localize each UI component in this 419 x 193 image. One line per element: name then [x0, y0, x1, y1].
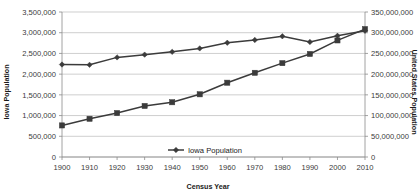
left-tick-label: 3,000,000 — [22, 28, 56, 37]
x-axis-tick-labels: 1900191019201930194019501960197019801990… — [54, 163, 374, 172]
right-tick-label: 200,000,000 — [371, 70, 413, 79]
axes-group — [59, 12, 368, 157]
left-tick-label: 3,500,000 — [22, 8, 56, 17]
left-tick-label: 0 — [52, 153, 56, 162]
data-point-marker — [280, 34, 285, 39]
left-tick-label: 1,500,000 — [22, 91, 56, 100]
x-tick-label: 2010 — [357, 163, 374, 172]
x-tick-label: 1990 — [301, 163, 318, 172]
data-point-marker — [142, 52, 147, 57]
data-point-marker — [252, 70, 257, 75]
right-tick-label: 350,000,000 — [371, 8, 413, 17]
x-axis-title: Census Year — [186, 182, 229, 191]
data-point-marker — [225, 80, 230, 85]
legend-swatch-marker — [173, 147, 178, 152]
x-tick-label: 2000 — [329, 163, 346, 172]
left-tick-label: 2,000,000 — [22, 70, 56, 79]
right-tick-label: 0 — [371, 153, 375, 162]
series-group — [59, 26, 367, 128]
data-point-marker — [87, 116, 92, 121]
data-point-marker — [87, 62, 92, 67]
left-axis-tick-labels: 0500,0001,000,0001,500,0002,000,0002,500… — [22, 8, 56, 162]
x-tick-label: 1950 — [191, 163, 208, 172]
data-point-marker — [59, 123, 64, 128]
data-point-marker — [114, 55, 119, 60]
data-point-marker — [335, 38, 340, 43]
data-point-marker — [225, 40, 230, 45]
x-tick-label: 1970 — [246, 163, 263, 172]
x-tick-label: 1910 — [81, 163, 98, 172]
data-point-marker — [197, 46, 202, 51]
data-point-marker — [142, 103, 147, 108]
x-tick-label: 1940 — [164, 163, 181, 172]
x-tick-label: 1920 — [109, 163, 126, 172]
chart-container: 0500,0001,000,0001,500,0002,000,0002,500… — [0, 0, 419, 193]
right-tick-label: 100,000,000 — [371, 111, 413, 120]
right-tick-label: 50,000,000 — [371, 132, 409, 141]
data-point-marker — [252, 37, 257, 42]
x-tick-label: 1900 — [54, 163, 71, 172]
series-line-united-states-population — [62, 29, 365, 125]
right-tick-label: 300,000,000 — [371, 28, 413, 37]
data-point-marker — [280, 61, 285, 66]
x-tickmarks-group — [62, 157, 365, 160]
data-point-marker — [197, 92, 202, 97]
gridlines-group — [62, 12, 365, 157]
left-tick-label: 2,500,000 — [22, 49, 56, 58]
chart-legend[interactable]: Iowa Population — [168, 146, 242, 155]
data-point-marker — [307, 51, 312, 56]
x-tick-label: 1980 — [274, 163, 291, 172]
data-point-marker — [114, 110, 119, 115]
right-axis-tick-labels: 050,000,000100,000,000150,000,000200,000… — [371, 8, 413, 162]
right-tick-label: 150,000,000 — [371, 91, 413, 100]
left-tick-label: 1,000,000 — [22, 111, 56, 120]
x-tick-label: 1960 — [219, 163, 236, 172]
data-point-marker — [362, 26, 367, 31]
left-y-axis-title: Iowa Population — [2, 64, 11, 119]
right-y-axis-title: United States Population — [410, 49, 419, 134]
x-tick-label: 1930 — [136, 163, 153, 172]
legend-item-label[interactable]: Iowa Population — [188, 146, 242, 155]
dual-axis-line-chart: 0500,0001,000,0001,500,0002,000,0002,500… — [0, 0, 419, 193]
data-point-marker — [170, 100, 175, 105]
series-line-iowa-population — [62, 31, 365, 65]
right-tick-label: 250,000,000 — [371, 49, 413, 58]
data-point-marker — [307, 39, 312, 44]
left-tick-label: 500,000 — [29, 132, 56, 141]
data-point-marker — [59, 62, 64, 67]
